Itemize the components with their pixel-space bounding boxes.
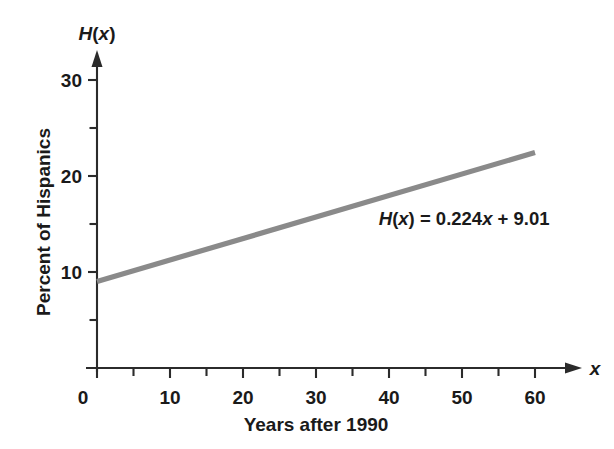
- y-axis-arrowhead: [92, 50, 103, 67]
- x-tick-label-50: 50: [451, 387, 472, 408]
- y-tick-label-20: 20: [61, 166, 82, 187]
- x-tick-label-10: 10: [159, 387, 180, 408]
- x-tick-label-40: 40: [378, 387, 399, 408]
- x-tick-label-0: 0: [78, 387, 89, 408]
- x-tick-label-60: 60: [524, 387, 545, 408]
- chart-figure: 30 20 10 H(x) Percent of Hispanics: [0, 0, 614, 449]
- y-axis-group: 30 20 10 H(x) Percent of Hispanics: [33, 23, 115, 372]
- x-axis-symbol-label: x: [589, 358, 602, 379]
- y-tick-label-30: 30: [61, 70, 82, 91]
- y-axis-title: Percent of Hispanics: [33, 128, 54, 316]
- equation-annotation: H(x) = 0.224x + 9.01: [379, 208, 550, 229]
- x-axis-arrowhead: [565, 363, 582, 374]
- x-tick-label-20: 20: [232, 387, 253, 408]
- y-axis-symbol-label: H(x): [79, 23, 116, 44]
- x-tick-label-30: 30: [305, 387, 326, 408]
- x-axis-title: Years after 1990: [244, 414, 389, 435]
- y-tick-label-10: 10: [61, 262, 82, 283]
- chart-svg: 30 20 10 H(x) Percent of Hispanics: [0, 0, 614, 449]
- x-axis-group: 0 10 20 30 40 50 60 x Years after 1990: [78, 358, 602, 435]
